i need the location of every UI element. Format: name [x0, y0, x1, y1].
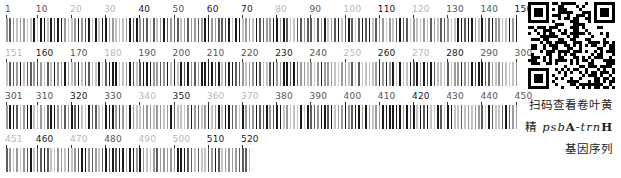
- position-label: 301: [5, 91, 23, 101]
- barcode-row-2: 1511601701801902002102202302402502602702…: [6, 48, 519, 88]
- position-label: 160: [36, 48, 54, 58]
- position-label: 30: [104, 4, 116, 14]
- position-label: 390: [309, 91, 327, 101]
- position-label: 210: [207, 48, 225, 58]
- position-label: 480: [104, 134, 122, 144]
- position-label: 490: [138, 134, 156, 144]
- caption-line-2: 精 psbA-trnH: [525, 116, 613, 138]
- position-label: 320: [70, 91, 88, 101]
- position-label: 510: [207, 134, 225, 144]
- position-label: 130: [446, 4, 464, 14]
- qr-code[interactable]: [528, 2, 615, 89]
- position-label: 250: [344, 48, 362, 58]
- position-label: 100: [344, 4, 362, 14]
- position-label: 340: [138, 91, 156, 101]
- caption-line-1: 扫码查看卷叶黄: [525, 94, 613, 116]
- position-label: 60: [207, 4, 219, 14]
- position-label: 460: [36, 134, 54, 144]
- position-label: 500: [173, 134, 191, 144]
- position-ticks: 1511601701801902002102202302402502602702…: [6, 48, 519, 62]
- position-label: 180: [104, 48, 122, 58]
- position-label: 410: [378, 91, 396, 101]
- position-label: 151: [5, 48, 23, 58]
- position-label: 240: [309, 48, 327, 58]
- caption-line-3: 基因序列: [525, 138, 613, 160]
- position-label: 170: [70, 48, 88, 58]
- position-label: 430: [446, 91, 464, 101]
- barcode-row-3: 3013103203303403503603703803904004104204…: [6, 91, 519, 131]
- position-label: 350: [173, 91, 191, 101]
- position-label: 310: [36, 91, 54, 101]
- position-ticks: 451460470480490500510520: [6, 134, 519, 148]
- position-label: 270: [412, 48, 430, 58]
- position-label: 370: [241, 91, 259, 101]
- barcode-row-1: 1102030405060708090100110120130140150: [6, 4, 519, 44]
- position-label: 220: [241, 48, 259, 58]
- position-label: 400: [344, 91, 362, 101]
- position-label: 280: [446, 48, 464, 58]
- position-label: 80: [275, 4, 287, 14]
- position-label: 230: [275, 48, 293, 58]
- position-ticks: 1102030405060708090100110120130140150: [6, 4, 519, 18]
- position-label: 451: [5, 134, 23, 144]
- position-ticks: 3013103203303403503603703803904004104204…: [6, 91, 519, 105]
- position-label: 470: [70, 134, 88, 144]
- position-label: 520: [241, 134, 259, 144]
- position-label: 330: [104, 91, 122, 101]
- position-label: 70: [241, 4, 253, 14]
- position-label: 290: [480, 48, 498, 58]
- position-label: 20: [70, 4, 82, 14]
- position-label: 440: [480, 91, 498, 101]
- position-label: 40: [138, 4, 150, 14]
- position-label: 50: [173, 4, 185, 14]
- position-label: 190: [138, 48, 156, 58]
- position-label: 360: [207, 91, 225, 101]
- position-label: 140: [480, 4, 498, 14]
- position-label: 380: [275, 91, 293, 101]
- position-label: 120: [412, 4, 430, 14]
- position-label: 260: [378, 48, 396, 58]
- position-label: 420: [412, 91, 430, 101]
- caption: 扫码查看卷叶黄 精 psbA-trnH 基因序列: [525, 94, 613, 160]
- position-label: 10: [36, 4, 48, 14]
- position-label: 1: [5, 4, 11, 14]
- position-label: 90: [309, 4, 321, 14]
- position-label: 110: [378, 4, 396, 14]
- barcode-row-4: 451460470480490500510520: [6, 134, 519, 174]
- position-label: 200: [173, 48, 191, 58]
